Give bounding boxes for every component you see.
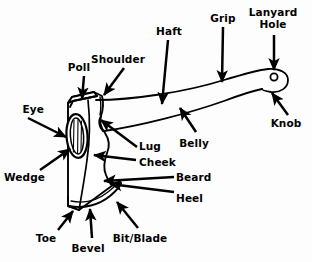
axe-parts-diagram: Eye Wedge Poll Shoulder Haft Grip Lanyar… xyxy=(0,0,312,262)
label-bevel: Bevel xyxy=(64,243,112,255)
arrow-toe xyxy=(58,211,73,230)
arrow-heel xyxy=(110,184,174,192)
axe-illustration xyxy=(0,0,312,262)
label-lug: Lug xyxy=(139,141,161,153)
label-cheek: Cheek xyxy=(139,157,176,169)
label-shoulder: Shoulder xyxy=(91,54,145,66)
arrow-bit-blade xyxy=(117,202,138,228)
arrow-knob xyxy=(272,93,288,115)
label-heel: Heel xyxy=(176,193,203,205)
axe-haft-bottom xyxy=(104,89,262,131)
label-beard: Beard xyxy=(176,172,211,184)
label-eye: Eye xyxy=(0,104,44,116)
arrow-grip xyxy=(222,27,223,82)
label-toe: Toe xyxy=(26,233,66,245)
arrow-shoulder xyxy=(104,68,124,95)
arrow-wedge xyxy=(40,149,70,170)
label-wedge: Wedge xyxy=(4,172,45,184)
label-haft: Haft xyxy=(147,26,191,38)
label-knob: Knob xyxy=(262,118,310,130)
label-grip: Grip xyxy=(202,13,244,25)
label-bit-blade: Bit/Blade xyxy=(108,233,172,245)
label-belly: Belly xyxy=(170,138,218,150)
axe-lanyard-hole xyxy=(270,73,277,80)
label-lanyard-hole: Lanyard Hole xyxy=(246,7,300,30)
arrow-bevel xyxy=(90,209,92,238)
arrow-beard xyxy=(104,177,174,181)
arrow-eye xyxy=(28,118,66,137)
